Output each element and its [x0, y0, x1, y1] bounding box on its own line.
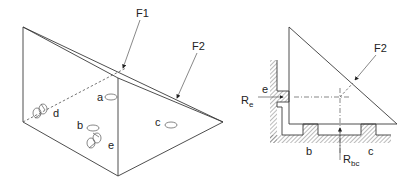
- locator-c: [165, 122, 177, 128]
- f1-arrow: [123, 20, 140, 68]
- support-pad-c: [361, 124, 376, 135]
- locator-e-cylinder: [87, 133, 101, 148]
- locator-a: [105, 94, 117, 100]
- fixture-section-view: F2 Re e Rbc b c: [241, 27, 397, 168]
- fixture-base-hatch: [270, 135, 391, 143]
- f2-line-of-action: [340, 83, 353, 97]
- hidden-edge: [23, 68, 126, 122]
- label-b: b: [77, 119, 83, 131]
- re-label: Re: [241, 94, 254, 109]
- f2-label: F2: [192, 40, 205, 52]
- e-label: e: [262, 83, 268, 95]
- bottom-left-edge: [23, 122, 118, 176]
- prism-isometric-view: F1 F2 a b c d e: [23, 7, 223, 176]
- label-e: e: [108, 139, 114, 151]
- support-pad-b: [303, 124, 318, 135]
- locator-b: [87, 125, 99, 131]
- f1-label: F1: [136, 7, 149, 19]
- label-c: c: [155, 116, 161, 128]
- fixture-diagram: F1 F2 a b c d e: [0, 0, 416, 185]
- bottom-right-edge: [118, 122, 223, 176]
- f2-force-arrow: [355, 55, 376, 80]
- label-a: a: [97, 91, 104, 103]
- label-d: d: [53, 107, 59, 119]
- b-label: b: [306, 145, 312, 157]
- lower-slope-edge-back: [23, 27, 118, 78]
- fixture-wall-hatch: [270, 60, 277, 143]
- f2-force-label: F2: [374, 42, 387, 54]
- side-locator-e: [277, 91, 289, 102]
- rbc-label: Rbc: [343, 153, 359, 168]
- f2-arrow: [177, 53, 197, 98]
- lower-slope-edge-front: [118, 78, 223, 122]
- c-label: c: [368, 145, 374, 157]
